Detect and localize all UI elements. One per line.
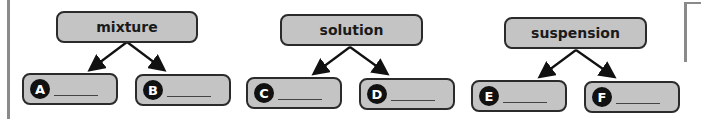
node-mixture: mixture — [56, 11, 198, 43]
answer-blank[interactable] — [391, 100, 435, 101]
answer-box-c: C — [246, 77, 342, 109]
node-suspension: suspension — [504, 17, 647, 49]
letter-badge: A — [30, 79, 50, 99]
answer-box-d: D — [359, 78, 455, 110]
answer-blank[interactable] — [54, 95, 98, 96]
letter-badge: B — [143, 80, 163, 100]
node-solution: solution — [280, 14, 423, 46]
letter-badge: E — [479, 86, 499, 106]
answer-blank[interactable] — [503, 102, 547, 103]
answer-box-f: F — [584, 81, 680, 113]
answer-blank[interactable] — [278, 99, 322, 100]
letter-badge: D — [367, 84, 387, 104]
answer-blank[interactable] — [167, 96, 211, 97]
letter-badge: C — [254, 83, 274, 103]
answer-box-b: B — [135, 74, 231, 106]
node-label: mixture — [96, 19, 157, 35]
answer-box-a: A — [22, 73, 118, 105]
node-label: suspension — [531, 25, 620, 41]
answer-blank[interactable] — [616, 103, 660, 104]
letter-badge: F — [592, 87, 612, 107]
answer-box-e: E — [471, 80, 567, 112]
node-label: solution — [320, 22, 384, 38]
